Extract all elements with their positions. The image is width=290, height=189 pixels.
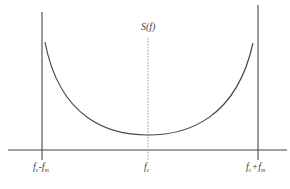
sf-label-text: S(f) — [141, 21, 155, 32]
label-fc-minus-fm: fc-fm — [33, 162, 49, 173]
spectral-density-curve — [45, 42, 253, 135]
sf-label: S(f) — [141, 22, 155, 32]
label-sub: m — [45, 167, 49, 173]
label-sub: m — [261, 167, 265, 173]
label-sub: c — [147, 167, 150, 173]
label-fc-plus-fm: fc+fm — [246, 162, 265, 173]
label-fc: fc — [144, 162, 149, 173]
